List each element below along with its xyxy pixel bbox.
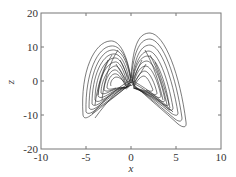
svg-text:0: 0	[33, 75, 39, 87]
phase-plot: 20 10 0 -10 -20 -10 -5 0 5 10 x z	[0, 0, 236, 177]
svg-text:5: 5	[173, 151, 179, 163]
svg-text:-10: -10	[34, 151, 49, 163]
svg-text:-10: -10	[23, 109, 38, 121]
svg-text:10: 10	[216, 151, 228, 163]
attractor-curves	[83, 33, 187, 127]
svg-text:20: 20	[27, 7, 39, 19]
x-axis-label: x	[128, 162, 134, 174]
svg-text:10: 10	[27, 41, 39, 53]
svg-text:-5: -5	[81, 151, 91, 163]
y-axis-label: z	[4, 79, 16, 85]
y-tick-labels: 20 10 0 -10 -20	[23, 7, 38, 155]
